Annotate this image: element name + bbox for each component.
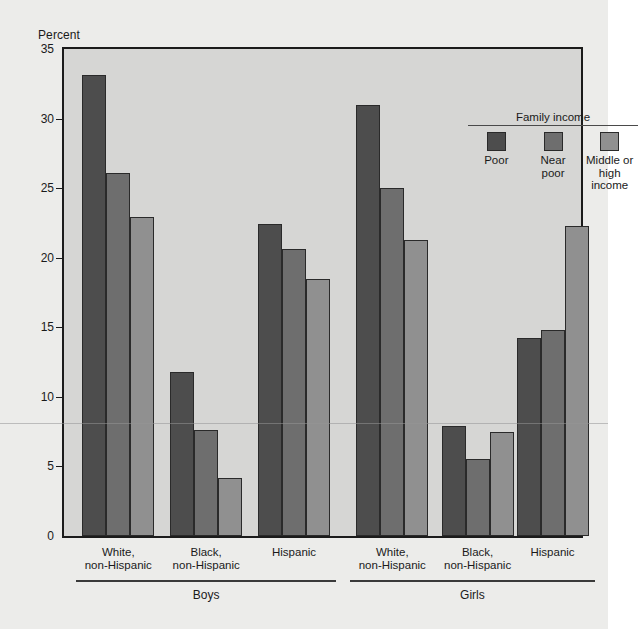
x-axis-category-label: Hispanic [272,546,316,559]
bar [106,173,130,536]
y-axis-tick-label: 35 [14,42,54,56]
legend-swatch [487,132,506,151]
legend-item: Poor [468,132,525,167]
legend-swatch [600,132,619,151]
x-axis-category-label: Hispanic [531,546,575,559]
legend-item: Middle or high income [581,132,638,192]
bar [170,372,194,536]
bar [194,430,218,536]
legend-swatch [544,132,563,151]
bar [466,459,490,536]
x-axis-category-label: Black,non-Hispanic [444,546,511,572]
legend: Family income PoorNear poorMiddle or hig… [468,111,638,192]
scan-artifact-line [0,423,608,424]
bar [380,188,404,536]
legend-item: Near poor [525,132,582,179]
bar [490,432,514,536]
y-axis-tick-label: 10 [14,390,54,404]
bar [404,240,428,536]
bar [442,426,466,536]
bar [306,279,330,536]
legend-label: Near poor [525,154,582,179]
group-rule [76,580,336,582]
bar [282,249,306,536]
y-axis-tick-label: 0 [14,529,54,543]
y-axis-tick-label: 5 [14,459,54,473]
bar [541,330,565,536]
bar [218,478,242,536]
bar [356,105,380,536]
legend-divider [468,125,638,126]
legend-label: Poor [468,154,525,167]
y-axis-tick-label: 25 [14,181,54,195]
y-axis-tick-label: 30 [14,112,54,126]
legend-label: Middle or high income [581,154,638,192]
x-axis-category-label: White,non-Hispanic [85,546,152,572]
plot-area: Family income PoorNear poorMiddle or hig… [62,47,583,538]
x-axis-category-label: White,non-Hispanic [359,546,426,572]
group-label-boys: Boys [193,588,220,602]
bar [82,75,106,536]
legend-title: Family income [468,111,638,125]
group-label-girls: Girls [460,588,485,602]
bar [130,217,154,536]
group-rule [350,580,594,582]
legend-items: PoorNear poorMiddle or high income [468,132,638,192]
bar [258,224,282,536]
bar [565,226,589,536]
bar [517,338,541,536]
y-axis-tick-label: 20 [14,251,54,265]
y-axis-tick-label: 15 [14,320,54,334]
y-axis-title: Percent [38,28,80,42]
x-axis-category-label: Black,non-Hispanic [173,546,240,572]
